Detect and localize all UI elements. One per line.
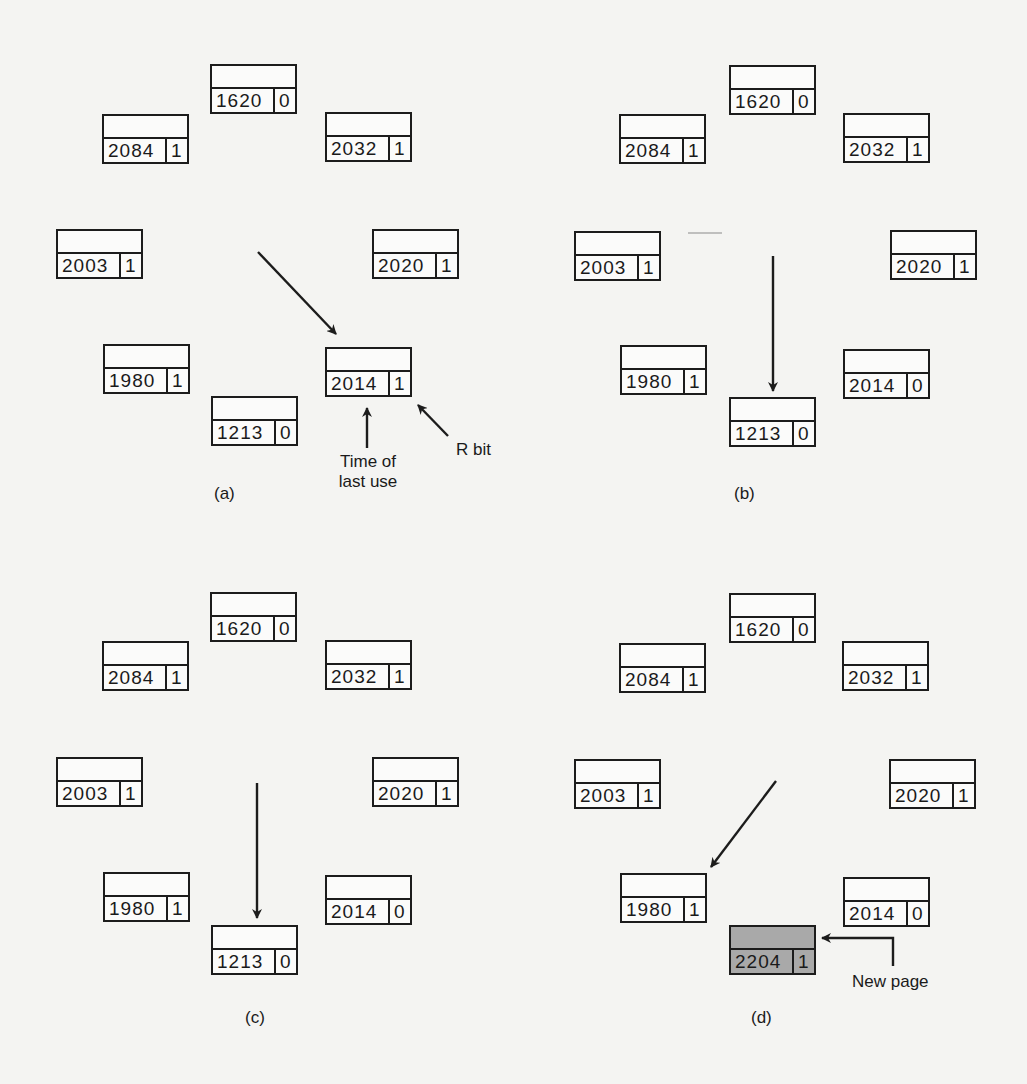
page-entry: 16200 xyxy=(729,593,816,643)
panel-d: 1620020841203212003120201198012014022041 xyxy=(0,0,1027,1084)
page-frame-slot xyxy=(731,927,814,950)
time-of-last-use: 2014 xyxy=(845,902,908,925)
time-of-last-use-label: Time of last use xyxy=(332,452,404,492)
r-bit: 1 xyxy=(685,898,705,921)
page-entry: 20031 xyxy=(574,759,661,809)
time-of-last-use: 2032 xyxy=(844,666,907,689)
page-entry: 20321 xyxy=(842,641,929,691)
page-frame-slot xyxy=(891,761,974,784)
new-page-label: New page xyxy=(852,972,929,992)
page-fields: 20321 xyxy=(844,666,927,689)
caption-a: (a) xyxy=(214,484,235,504)
page-fields: 20201 xyxy=(891,784,974,807)
page-entry: 19801 xyxy=(620,873,707,923)
new-page-entry: 22041 xyxy=(729,925,816,975)
page-frame-slot xyxy=(621,645,704,668)
r-bit: 1 xyxy=(954,784,974,807)
time-of-last-use: 2003 xyxy=(576,784,639,807)
page-frame-slot xyxy=(844,643,927,666)
r-bit: 1 xyxy=(684,668,704,691)
r-bit: 0 xyxy=(794,618,814,641)
page-frame-slot xyxy=(845,879,928,902)
r-bit: 1 xyxy=(639,784,659,807)
page-fields: 20140 xyxy=(845,902,928,925)
time-of-last-use: 1620 xyxy=(731,618,794,641)
page-frame-slot xyxy=(576,761,659,784)
r-bit-label: R bit xyxy=(456,440,491,460)
page-entry: 20140 xyxy=(843,877,930,927)
page-fields: 20841 xyxy=(621,668,704,691)
page-entry: 20841 xyxy=(619,643,706,693)
page-frame-slot xyxy=(622,875,705,898)
page-fields: 16200 xyxy=(731,618,814,641)
time-of-last-use: 1980 xyxy=(622,898,685,921)
page-entry: 20201 xyxy=(889,759,976,809)
r-bit: 0 xyxy=(908,902,928,925)
page-fields: 19801 xyxy=(622,898,705,921)
page-frame-slot xyxy=(731,595,814,618)
page-fields: 20031 xyxy=(576,784,659,807)
time-of-last-use: 2020 xyxy=(891,784,954,807)
r-bit: 1 xyxy=(794,950,814,973)
caption-c: (c) xyxy=(245,1008,265,1028)
time-of-last-use: 2084 xyxy=(621,668,684,691)
time-of-last-use: 2204 xyxy=(731,950,794,973)
caption-d: (d) xyxy=(751,1008,772,1028)
caption-b: (b) xyxy=(734,484,755,504)
page-fields: 22041 xyxy=(731,950,814,973)
r-bit: 1 xyxy=(907,666,927,689)
